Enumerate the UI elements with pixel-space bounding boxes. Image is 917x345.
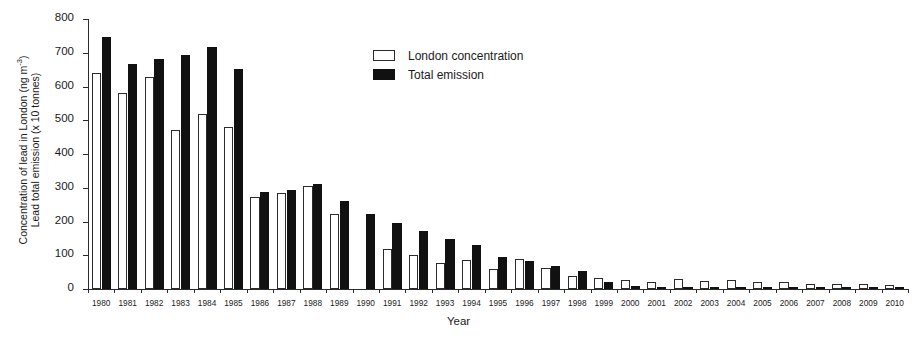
bar-total-emission-1996	[525, 261, 534, 289]
bar-total-emission-1994	[472, 245, 481, 289]
y-axis-title-line1-end: )	[17, 56, 29, 60]
x-axis-tick	[485, 289, 486, 293]
y-axis-tick-label: 300	[55, 180, 74, 192]
bar-london-concentration-2004	[727, 280, 736, 289]
x-axis-tick-label: 1983	[171, 298, 189, 308]
x-axis-tick	[220, 289, 221, 293]
bar-london-concentration-2003	[700, 281, 709, 289]
x-axis-tick-label: 1984	[198, 298, 216, 308]
x-axis-tick	[564, 289, 565, 293]
x-axis-tick	[141, 289, 142, 293]
x-axis-tick-label: 1988	[304, 298, 322, 308]
x-axis-tick	[670, 289, 671, 293]
x-axis-tick-label: 1980	[92, 298, 110, 308]
x-axis-tick-label: 1994	[462, 298, 480, 308]
bar-total-emission-1993	[445, 239, 454, 289]
bar-london-concentration-2007	[806, 284, 815, 289]
bar-london-concentration-2006	[779, 282, 788, 289]
y-axis-tick-label: 400	[55, 146, 74, 158]
bar-london-concentration-1987	[277, 193, 286, 289]
bar-london-concentration-2005	[753, 282, 762, 289]
bar-london-concentration-1988	[303, 186, 312, 289]
bar-total-emission-2006	[789, 287, 798, 289]
x-axis-tick-label: 1995	[489, 298, 507, 308]
y-axis-tick-label: 700	[55, 45, 74, 57]
x-axis-tick-label: 1999	[595, 298, 613, 308]
x-axis-tick-label: 1997	[542, 298, 560, 308]
x-axis-tick-label: 2008	[833, 298, 851, 308]
x-axis-tick-label: 2001	[647, 298, 665, 308]
y-axis-tick: 700	[83, 53, 88, 54]
x-axis-tick-label: 1998	[568, 298, 586, 308]
y-axis-tick: 400	[83, 154, 88, 155]
bar-london-concentration-2000	[621, 280, 630, 289]
legend-label: London concentration	[408, 49, 523, 63]
bar-london-concentration-1981	[118, 93, 127, 289]
x-axis-tick	[273, 289, 274, 293]
bar-total-emission-1991	[392, 223, 401, 289]
bar-london-concentration-1980	[92, 73, 101, 289]
x-axis-line	[88, 289, 908, 290]
bar-total-emission-2009	[869, 287, 878, 289]
x-axis-tick	[353, 289, 354, 293]
y-axis-tick: 800	[83, 19, 88, 20]
bar-total-emission-1985	[234, 69, 243, 289]
y-axis-tick-label: 500	[55, 112, 74, 124]
bar-total-emission-2000	[631, 286, 640, 289]
y-axis-tick: 200	[83, 222, 88, 223]
y-axis-tick-label: 600	[55, 79, 74, 91]
x-axis-tick-label: 2007	[806, 298, 824, 308]
x-axis-tick	[432, 289, 433, 293]
x-axis-tick	[749, 289, 750, 293]
x-axis-tick-label: 2002	[674, 298, 692, 308]
y-axis-title-line1-text: Concentration of lead in London (ng m	[17, 66, 29, 245]
bar-total-emission-2005	[763, 287, 772, 289]
bar-total-emission-2002	[683, 287, 692, 289]
x-axis-tick	[591, 289, 592, 293]
x-axis-tick-label: 1993	[436, 298, 454, 308]
bar-london-concentration-2001	[647, 282, 656, 289]
x-axis-tick-label: 1991	[383, 298, 401, 308]
bar-total-emission-1982	[154, 59, 163, 289]
bar-london-concentration-1998	[568, 276, 577, 290]
x-axis-tick-label: 2000	[621, 298, 639, 308]
bar-total-emission-2003	[710, 287, 719, 289]
bar-total-emission-1980	[102, 37, 111, 289]
bar-total-emission-1986	[260, 192, 269, 289]
legend-item-2: Total emission	[373, 65, 523, 84]
bar-london-concentration-1984	[198, 114, 207, 290]
x-axis-tick	[908, 289, 909, 293]
y-axis-tick-label: 200	[55, 214, 74, 226]
y-axis-tick-label: 800	[55, 11, 74, 23]
chart-legend: London concentrationTotal emission	[373, 46, 523, 84]
bar-total-emission-2008	[842, 287, 851, 289]
x-axis-tick-label: 1989	[330, 298, 348, 308]
legend-item-1: London concentration	[373, 46, 523, 65]
x-axis-tick-label: 2003	[700, 298, 718, 308]
bar-total-emission-1983	[181, 55, 190, 289]
x-axis-tick-label: 1990	[357, 298, 375, 308]
bar-total-emission-1987	[287, 190, 296, 289]
x-axis-tick	[458, 289, 459, 293]
x-axis-tick	[379, 289, 380, 293]
x-axis-tick	[326, 289, 327, 293]
bar-total-emission-2010	[895, 287, 904, 289]
y-axis-title-exponent: -3	[15, 59, 24, 66]
bar-london-concentration-1997	[541, 268, 550, 289]
x-axis-tick-label: 2004	[727, 298, 745, 308]
bar-total-emission-2004	[736, 287, 745, 289]
bar-london-concentration-2002	[674, 279, 683, 289]
bar-london-concentration-1996	[515, 259, 524, 289]
bar-london-concentration-1995	[489, 269, 498, 289]
bar-total-emission-1989	[340, 201, 349, 289]
x-axis-tick-label: 1981	[118, 298, 136, 308]
bar-total-emission-1988	[313, 184, 322, 289]
x-axis-tick-label: 2005	[753, 298, 771, 308]
lead-concentration-bar-chart: Concentration of lead in London (ng m-3)…	[0, 0, 917, 345]
bar-london-concentration-1994	[462, 260, 471, 289]
x-axis-tick	[194, 289, 195, 293]
x-axis-tick	[696, 289, 697, 293]
x-axis-tick-label: 1986	[251, 298, 269, 308]
x-axis-tick	[405, 289, 406, 293]
y-axis-tick: 300	[83, 188, 88, 189]
